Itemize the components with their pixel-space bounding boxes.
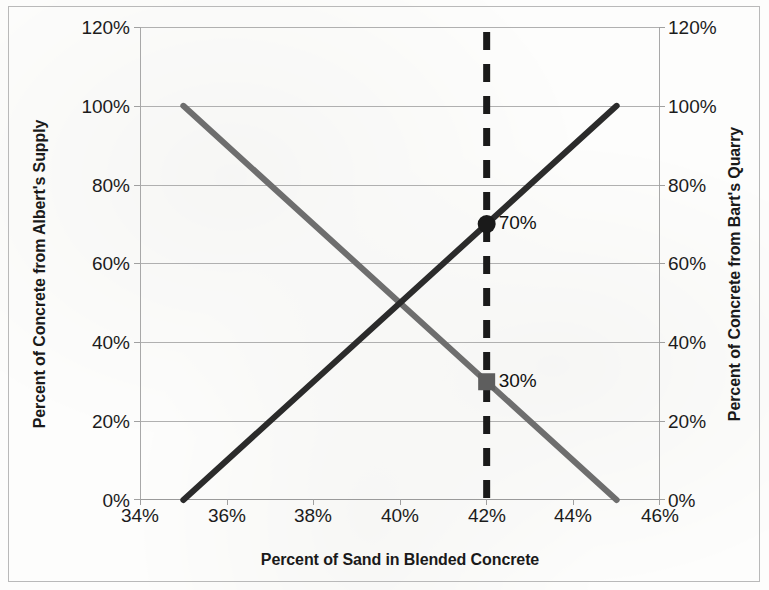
y-axis-right-ticks: 120% 100% 80% 60% 40% 20% 0%	[668, 0, 748, 590]
x-tick-40: 40%	[365, 505, 435, 527]
x-tick-36: 36%	[192, 505, 262, 527]
chart-screenshot: Percent of Concrete from Albert's Supply…	[0, 0, 769, 590]
series-layer	[140, 27, 660, 500]
y-tick-right-100: 100%	[668, 96, 748, 118]
y-axis-left-ticks: 120% 100% 80% 60% 40% 20% 0%	[50, 0, 130, 590]
y-tick-right-80: 80%	[668, 175, 748, 197]
y-axis-left-title: Percent of Concrete from Albert's Supply	[31, 44, 49, 504]
y-tick-right-60: 60%	[668, 253, 748, 275]
y-tick-left-120: 120%	[50, 17, 130, 39]
bart-value-label: 30%	[499, 370, 537, 392]
marker-albert-circle	[478, 215, 496, 233]
x-tick-34: 34%	[105, 505, 175, 527]
y-tick-right-20: 20%	[668, 411, 748, 433]
y-tick-left-20: 20%	[50, 411, 130, 433]
x-tick-38: 38%	[278, 505, 348, 527]
x-tick-46: 46%	[625, 505, 695, 527]
plot-area: 70% 30%	[140, 27, 660, 500]
x-tick-42: 42%	[452, 505, 522, 527]
x-axis-title: Percent of Sand in Blended Concrete	[140, 551, 660, 569]
x-tick-44: 44%	[538, 505, 608, 527]
y-tick-right-120: 120%	[668, 17, 748, 39]
y-tick-right-40: 40%	[668, 332, 748, 354]
y-tick-left-40: 40%	[50, 332, 130, 354]
albert-value-label: 70%	[499, 212, 537, 234]
y-tick-left-100: 100%	[50, 96, 130, 118]
marker-bart-square	[478, 373, 495, 390]
y-tick-left-80: 80%	[50, 175, 130, 197]
y-tick-left-60: 60%	[50, 253, 130, 275]
